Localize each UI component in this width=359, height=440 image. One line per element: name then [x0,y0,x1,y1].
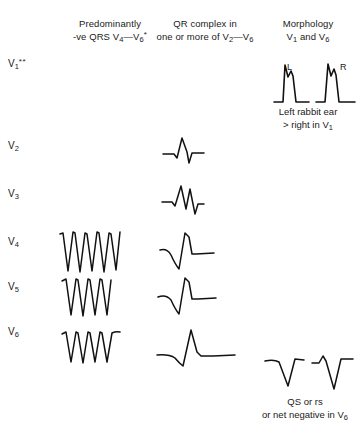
waveform-v3-qr-complex [160,182,230,220]
column-header-line2: V1 and V6 [258,31,358,45]
lead-letter: V [8,236,15,247]
rabbit-ear-caption-line2: > right in V1 [258,119,358,133]
v6-morphology-caption: QS or rs or net negative in V6 [252,396,358,422]
lead-letter: V [8,140,15,151]
row-label-v2: V2 [8,140,19,151]
hdr-sub: 6 [325,35,329,44]
column-header-qr-complex: QR complex in one or more of V2—V6 [140,18,270,44]
hdr-sub: 1 [293,35,297,44]
v6-caption-line1: QS or rs [252,396,358,409]
waveform-v1-rabbit-ears [272,60,358,105]
row-label-v1: V1** [8,58,26,69]
row-label-v4: V4 [8,236,19,247]
lead-letter: V [8,188,15,199]
caption-text: > right in V [283,119,329,130]
v6-caption-line2: or net negative in V6 [252,409,358,423]
column-header-line1: QR complex in [140,18,270,31]
lead-letter: V [8,281,15,292]
rabbit-ear-caption-line1: Left rabbit ear [258,106,358,119]
lead-number: 4 [15,240,19,249]
hdr-dash: and V [297,31,325,42]
waveform-v4-negative-qrs [58,228,138,276]
column-header-line1: Morphology [258,18,358,31]
row-label-v5: V5 [8,281,19,292]
lead-letter: V [8,58,15,69]
caption-text: or net negative in V [262,409,344,420]
waveform-v5-negative-qrs [60,274,140,320]
waveform-v6-morphology-qs-rs [262,350,356,392]
row-label-v3: V3 [8,188,19,199]
rabbit-ear-caption: Left rabbit ear > right in V1 [258,106,358,132]
lead-footnote: ** [19,57,26,66]
waveform-v6-negative-qrs [60,322,145,368]
lead-number: 6 [15,330,19,339]
column-header-morphology: Morphology V1 and V6 [258,18,358,44]
lead-number: 2 [15,144,19,153]
waveform-v4-qr-complex [158,228,238,276]
hdr-text: V [286,31,292,42]
waveform-v5-qr-complex [156,272,241,320]
hdr-text: one or more of V [157,31,229,42]
hdr-sub: 2 [229,35,233,44]
lead-number: 5 [15,285,19,294]
ecg-morphology-figure: Predominantly -ve QRS V4—V6* QR complex … [0,0,359,440]
waveform-v2-qr-complex [160,133,230,169]
row-label-v6: V6 [8,326,19,337]
hdr-dash: —V [233,31,249,42]
hdr-text: -ve QRS V [73,31,119,42]
caption-sub: 6 [344,413,348,422]
lead-number: 3 [15,192,19,201]
caption-sub: 1 [329,123,333,132]
hdr-sub: 6 [249,35,253,44]
hdr-dash: —V [124,31,140,42]
column-header-line2: one or more of V2—V6 [140,31,270,45]
hdr-sub: 4 [119,35,123,44]
lead-letter: V [8,326,15,337]
waveform-v6-qr-complex [155,322,245,370]
